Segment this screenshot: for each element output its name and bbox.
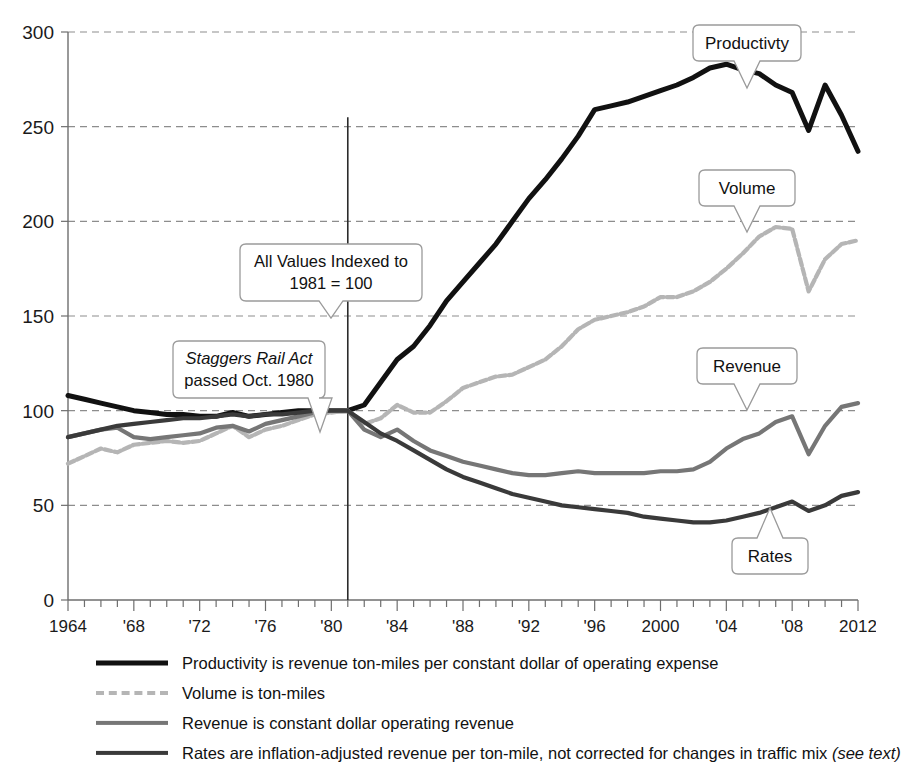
x-tick-label: '80 [320, 617, 342, 636]
x-tick-label: 2000 [642, 617, 680, 636]
chart-annotations: All Values Indexed to1981 = 100Staggers … [173, 244, 422, 432]
x-tick-label: '68 [123, 617, 145, 636]
x-tick-label: 2012 [839, 617, 876, 636]
x-tick-label: '84 [386, 617, 408, 636]
legend-item-rates: Rates are inflation-adjusted revenue per… [0, 738, 876, 768]
data-series [68, 64, 858, 522]
callout-productivity-text: Productivty [705, 34, 790, 53]
series-pointer-callouts: ProductivtyVolumeRevenueRates [693, 25, 808, 574]
series-line-rates [68, 411, 858, 523]
y-axis-tick-labels: 050100150200250300 [22, 22, 54, 611]
y-tick-label: 100 [22, 401, 54, 422]
legend-label-revenue: Revenue is constant dollar operating rev… [182, 714, 514, 733]
y-tick-label: 200 [22, 211, 54, 232]
y-tick-label: 50 [33, 495, 54, 516]
axes [61, 32, 858, 611]
x-tick-label: '08 [781, 617, 803, 636]
x-tick-label: '72 [189, 617, 211, 636]
x-tick-label: '04 [715, 617, 737, 636]
x-axis-tick-labels: 1964'68'72'76'80'84'88'92'962000'04'0820… [49, 617, 876, 636]
legend-label-productivity: Productivity is revenue ton-miles per co… [182, 654, 719, 673]
x-tick-label: '96 [584, 617, 606, 636]
callout-revenue-text: Revenue [713, 357, 781, 376]
legend-label-volume: Volume is ton-miles [182, 684, 325, 703]
anno-indexed-line1: All Values Indexed to [254, 252, 408, 270]
callout-rates-text: Rates [748, 547, 792, 566]
y-tick-label: 0 [43, 590, 54, 611]
callout-volume-text: Volume [719, 179, 776, 198]
y-tick-label: 300 [22, 22, 54, 43]
x-tick-label: '88 [452, 617, 474, 636]
chart-legend: Productivity is revenue ton-miles per co… [0, 648, 876, 773]
x-tick-label: 1964 [49, 617, 87, 636]
x-tick-label: '76 [254, 617, 276, 636]
legend-item-revenue: Revenue is constant dollar operating rev… [0, 708, 876, 738]
legend-label-rates-note: (see text) [832, 744, 901, 762]
anno-staggers-line2: passed Oct. 1980 [184, 371, 313, 389]
anno-indexed-line2: 1981 = 100 [289, 274, 372, 292]
x-tick-label: '92 [518, 617, 540, 636]
legend-item-productivity: Productivity is revenue ton-miles per co… [0, 648, 876, 678]
legend-label-rates: Rates are inflation-adjusted revenue per… [182, 744, 901, 763]
anno-staggers-line1: Staggers Rail Act [186, 349, 314, 367]
y-tick-label: 250 [22, 117, 54, 138]
line-chart-plot: 050100150200250300 1964'68'72'76'80'84'8… [0, 0, 876, 660]
legend-item-volume: Volume is ton-miles [0, 678, 876, 708]
legend-label-rates-main: Rates are inflation-adjusted revenue per… [182, 744, 832, 762]
y-tick-label: 150 [22, 306, 54, 327]
